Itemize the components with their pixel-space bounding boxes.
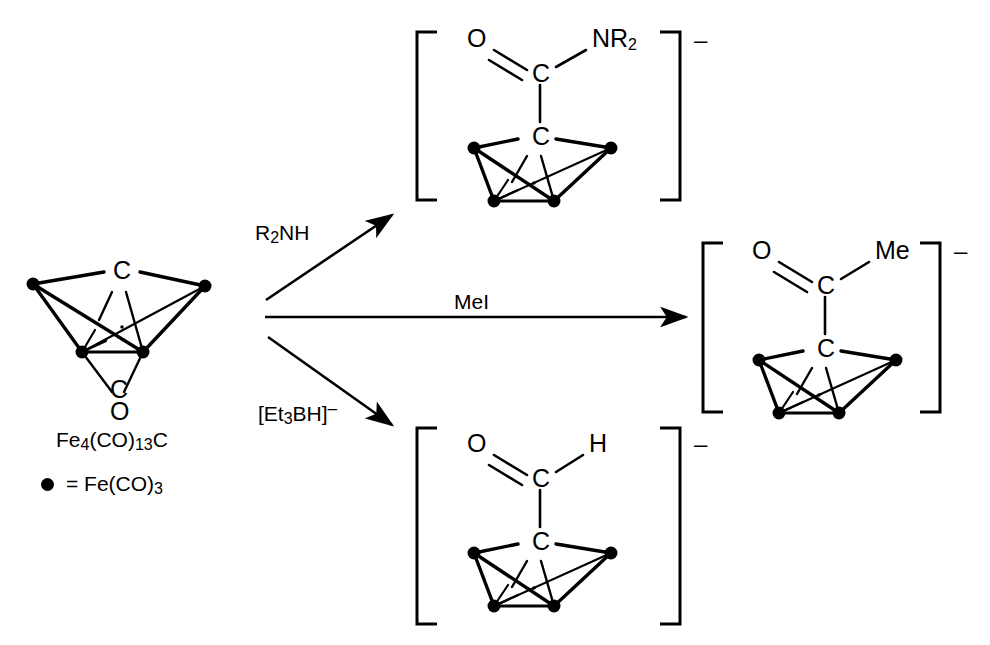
carbamoyl-oxygen-label: O (467, 26, 486, 51)
acetyl-charge-label: – (954, 239, 967, 263)
arrow-amine-label-sub: 2 (270, 229, 279, 246)
formyl-acyl-carbon-label: C (532, 466, 550, 491)
reactant-formula-fe: Fe (56, 428, 81, 451)
legend-group-sub: 3 (154, 480, 163, 497)
formyl-product-bracket (417, 428, 680, 624)
reactant-cluster-skeleton (27, 272, 212, 392)
legend-filled-circle-icon (41, 478, 54, 491)
carbamoyl-acyl-carbon-label: C (532, 61, 550, 86)
reactant-formula: Fe4(CO)13C (56, 429, 168, 453)
legend-equals: = (66, 472, 78, 495)
arrow-hydride-label-et: [Et (258, 402, 284, 425)
acetyl-acyl-carbon-label: C (817, 273, 835, 298)
carbamoyl-substituent-sub: 2 (628, 36, 637, 53)
formyl-oxygen-label: O (467, 431, 486, 456)
carbamoyl-substituent-nr: NR (592, 24, 628, 52)
legend-group: Fe(CO) (84, 472, 154, 495)
arrow-methyl-iodide-label: MeI (454, 291, 489, 312)
arrow-hydride-label-sub: 3 (284, 410, 293, 427)
acetyl-substituent-label: Me (875, 238, 910, 263)
reactant-formula-c: C (153, 428, 168, 451)
reactant-carbonyl-o-label: O (110, 399, 129, 424)
arrow-hydride-label-bh: BH] (293, 402, 328, 425)
reactant-formula-co: (CO) (89, 428, 135, 451)
legend-text: = Fe(CO)3 (66, 473, 163, 497)
reactant-formula-sub-13: 13 (135, 436, 153, 453)
formyl-carbide-label: C (532, 529, 550, 554)
carbamoyl-substituent-label: NR2 (592, 26, 637, 53)
carbamoyl-product-bracket (417, 32, 680, 200)
scheme-vector-layer (0, 0, 990, 645)
arrow-amine-label: R2NH (255, 222, 309, 246)
acetyl-oxygen-label: O (752, 238, 771, 263)
formyl-substituent-label: H (589, 431, 607, 456)
acetyl-product-bracket (703, 243, 940, 412)
formyl-charge-label: – (694, 432, 707, 456)
arrow-hydride-label: [Et3BH]– (258, 400, 337, 427)
arrow-amine-label-r: R (255, 221, 270, 244)
reaction-scheme-diagram: C C O Fe4(CO)13C = Fe(CO)3 R2NH MeI [Et3… (0, 0, 990, 645)
arrow-amine-label-nh: NH (279, 221, 309, 244)
reactant-carbide-label: C (113, 258, 131, 283)
arrow-methyl-iodide-label-text: MeI (454, 290, 489, 313)
carbamoyl-carbide-label: C (532, 124, 550, 149)
acetyl-carbide-label: C (817, 336, 835, 361)
carbamoyl-charge-label: – (694, 28, 707, 52)
arrow-hydride-label-charge: – (328, 399, 337, 418)
